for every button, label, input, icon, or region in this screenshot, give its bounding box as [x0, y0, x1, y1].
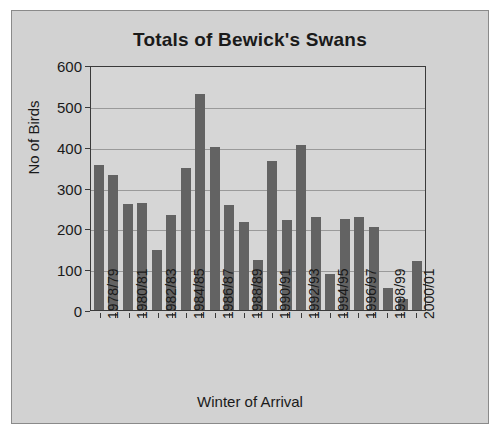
- x-tick-mark: [215, 313, 216, 318]
- x-tick-mark: [301, 313, 302, 318]
- bar: [94, 165, 104, 310]
- x-tick-label: 1996/97: [363, 268, 379, 319]
- y-axis-ticks: 6005004003002001000: [42, 66, 90, 311]
- x-tick-label: 1980/81: [134, 268, 150, 319]
- x-tick-label: 1994/95: [335, 268, 351, 319]
- x-tick-label: 1978/79: [105, 268, 121, 319]
- y-tick-label: 600: [57, 58, 82, 75]
- y-axis-title: No of Birds: [25, 73, 42, 203]
- x-tick-mark: [158, 313, 159, 318]
- x-tick-mark: [416, 313, 417, 318]
- x-tick-label: 1986/87: [220, 268, 236, 319]
- y-tick-label: 0: [74, 303, 82, 320]
- x-tick-mark: [186, 313, 187, 318]
- x-tick-label: 1990/91: [277, 268, 293, 319]
- bar: [123, 204, 133, 310]
- bar: [267, 161, 277, 310]
- chart-figure: Totals of Bewick's Swans No of Birds 600…: [11, 10, 489, 424]
- x-tick-mark: [272, 313, 273, 318]
- chart-title: Totals of Bewick's Swans: [12, 29, 488, 51]
- x-tick-mark: [129, 313, 130, 318]
- y-tick-label: 400: [57, 139, 82, 156]
- x-tick-label: 2000/01: [421, 268, 437, 319]
- x-tick-label: 1984/85: [191, 268, 207, 319]
- x-axis-title: Winter of Arrival: [12, 393, 488, 410]
- x-tick-label: 1988/89: [249, 268, 265, 319]
- bar: [325, 274, 335, 310]
- y-tick-label: 100: [57, 262, 82, 279]
- bar: [296, 145, 306, 310]
- x-tick-label: 1998/99: [392, 268, 408, 319]
- y-tick-label: 200: [57, 221, 82, 238]
- x-tick-mark: [358, 313, 359, 318]
- bar: [152, 250, 162, 310]
- bar: [239, 222, 249, 310]
- x-tick-mark: [100, 313, 101, 318]
- x-tick-mark: [330, 313, 331, 318]
- x-tick-label: 1992/93: [306, 268, 322, 319]
- y-tick-label: 500: [57, 98, 82, 115]
- x-tick-label: 1982/83: [163, 268, 179, 319]
- bar: [181, 168, 191, 310]
- y-tick-mark: [85, 311, 90, 312]
- x-tick-mark: [244, 313, 245, 318]
- x-axis-tick-labels: 1978/791980/811982/831984/851986/871988/…: [90, 319, 426, 389]
- x-tick-mark: [387, 313, 388, 318]
- bar: [210, 147, 220, 310]
- y-tick-label: 300: [57, 180, 82, 197]
